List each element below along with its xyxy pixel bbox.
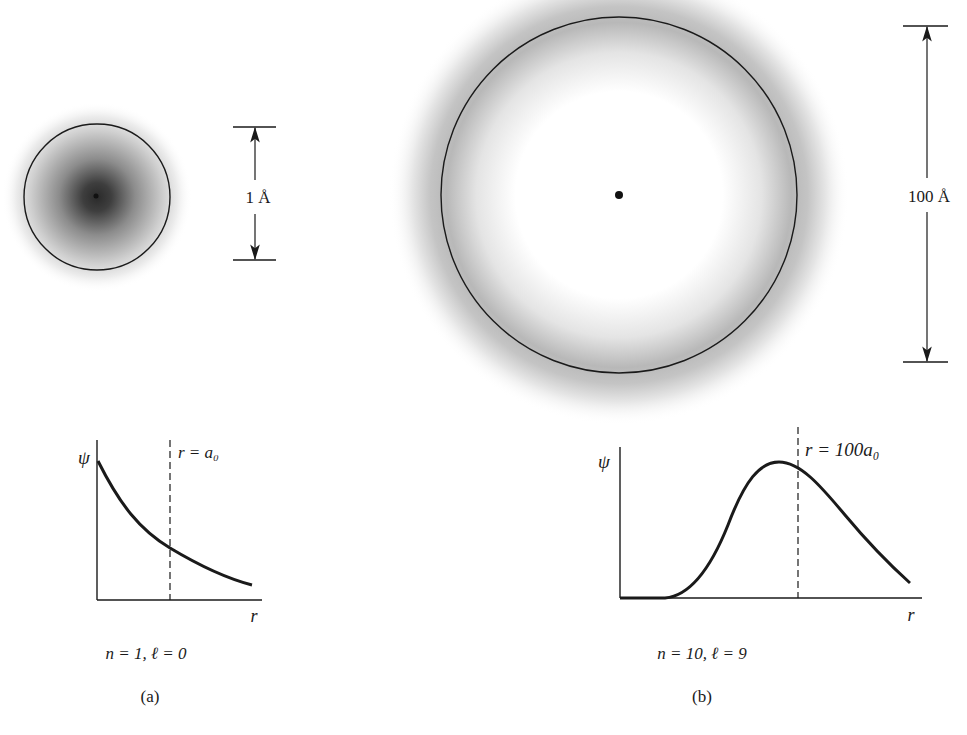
- panel-b: 100 Å ψ r r = 100a₀ n = 10, ℓ = 9 (b): [389, 0, 951, 706]
- y-axis-label-b: ψ: [598, 451, 611, 472]
- caption-a: (a): [141, 687, 160, 706]
- x-axis-label-b: r: [907, 605, 915, 625]
- x-axis-label-a: r: [250, 606, 258, 626]
- electron-cloud-b: [389, 0, 849, 425]
- panel-a: 1 Å ψ r r = a₀ n = 1, ℓ = 0 (a): [2, 102, 276, 706]
- hydrogen-orbital-figure: 1 Å ψ r r = a₀ n = 1, ℓ = 0 (a) 100 Å: [0, 0, 967, 735]
- quantum-numbers-a: n = 1, ℓ = 0: [105, 644, 187, 663]
- psi-curve-a: [98, 461, 252, 585]
- wavefunction-graph-b: ψ r r = 100a₀: [598, 427, 922, 625]
- electron-cloud-a: [2, 102, 192, 292]
- y-axis-label-a: ψ: [78, 447, 91, 468]
- psi-curve-b: [620, 462, 910, 598]
- scale-bar-a: 1 Å: [233, 127, 276, 260]
- marker-label-a: r = a₀: [178, 443, 219, 462]
- quantum-numbers-b: n = 10, ℓ = 9: [657, 644, 747, 663]
- nucleus-a: [94, 194, 99, 199]
- nucleus-b: [615, 191, 623, 199]
- caption-b: (b): [692, 687, 712, 706]
- marker-label-b: r = 100a₀: [805, 439, 879, 460]
- scale-label-a: 1 Å: [245, 188, 271, 207]
- scale-label-b: 100 Å: [908, 187, 951, 206]
- wavefunction-graph-a: ψ r r = a₀: [78, 440, 262, 626]
- scale-bar-b: 100 Å: [903, 26, 951, 362]
